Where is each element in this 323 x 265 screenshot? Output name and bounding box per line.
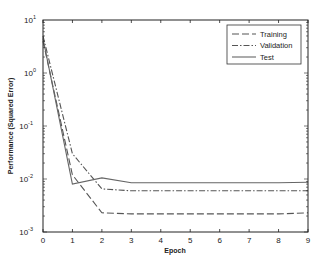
x-tick-label: 1 bbox=[70, 236, 75, 245]
x-tick-label: 2 bbox=[100, 236, 105, 245]
x-tick-label: 9 bbox=[306, 236, 311, 245]
performance-chart: 0123456789 10110010-110-210-3 Epoch Perf… bbox=[0, 0, 323, 265]
x-tick-label: 5 bbox=[188, 236, 193, 245]
x-tick-label: 6 bbox=[217, 236, 222, 245]
y-axis-label: Performance (Squared Error) bbox=[7, 78, 15, 174]
y-tick-labels: 10110010-110-210-3 bbox=[19, 14, 36, 237]
y-tick-label: 100 bbox=[24, 67, 36, 78]
x-tick-label: 3 bbox=[129, 236, 134, 245]
x-tick-labels: 0123456789 bbox=[41, 236, 311, 245]
y-tick-label: 101 bbox=[24, 14, 36, 25]
legend: TrainingValidationTest bbox=[227, 25, 301, 64]
legend-label-test: Test bbox=[260, 53, 275, 62]
legend-label-training: Training bbox=[260, 30, 287, 39]
x-tick-label: 4 bbox=[159, 236, 164, 245]
x-axis-label: Epoch bbox=[164, 247, 185, 255]
y-tick-label: 10-3 bbox=[19, 226, 33, 237]
x-tick-label: 8 bbox=[276, 236, 281, 245]
x-tick-label: 0 bbox=[41, 236, 46, 245]
x-tick-label: 7 bbox=[247, 236, 252, 245]
legend-label-validation: Validation bbox=[260, 41, 292, 50]
y-tick-label: 10-1 bbox=[19, 120, 33, 131]
y-tick-label: 10-2 bbox=[19, 173, 33, 184]
series-training-line bbox=[43, 41, 308, 214]
